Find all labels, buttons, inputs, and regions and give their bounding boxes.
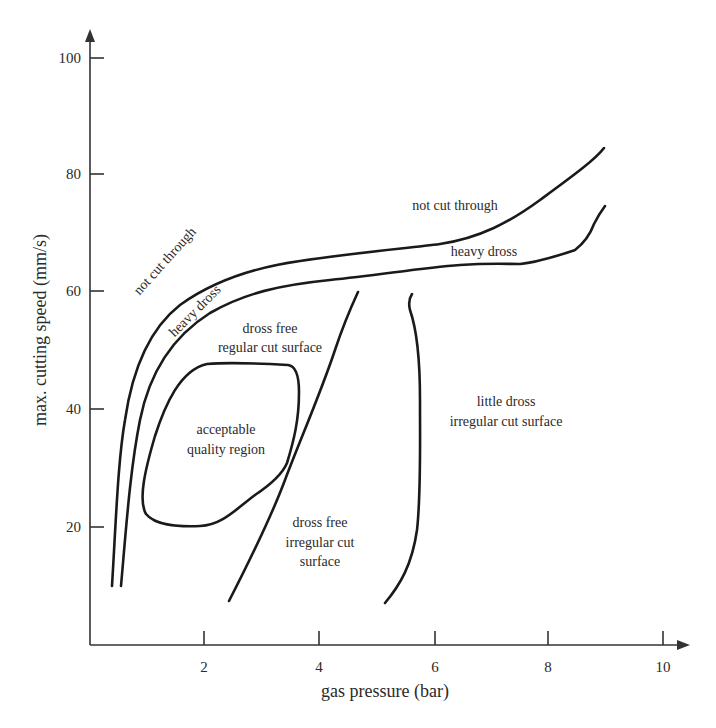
label-regular-line1: dross free xyxy=(243,321,298,336)
x-tick-label-4: 4 xyxy=(315,659,323,675)
y-tick-label-80: 80 xyxy=(66,166,81,182)
label-regular-line2: regular cut surface xyxy=(218,340,322,355)
little-dross-boundary xyxy=(385,294,420,603)
axes: 100 80 60 40 20 2 4 6 8 10 gas pressure … xyxy=(30,29,690,702)
not-cut-through-curve xyxy=(112,148,604,586)
x-tick-label-10: 10 xyxy=(656,659,671,675)
y-tick-label-100: 100 xyxy=(59,50,82,66)
curves xyxy=(112,148,605,603)
y-tick-label-20: 20 xyxy=(66,519,81,535)
x-tick-label-8: 8 xyxy=(544,659,552,675)
x-tick-label-6: 6 xyxy=(431,659,439,675)
label-acceptable-line1: acceptable xyxy=(196,422,255,437)
y-axis-title: max. cutting speed (mm/s) xyxy=(30,234,51,426)
y-tick-label-60: 60 xyxy=(66,283,81,299)
label-irregular-line2: irregular cut xyxy=(286,535,355,550)
label-little-dross-line1: little dross xyxy=(477,394,536,409)
label-irregular-line1: dross free xyxy=(293,515,348,530)
label-acceptable-line2: quality region xyxy=(187,442,265,457)
label-irregular-line3: surface xyxy=(300,554,340,569)
label-not-cut-through-right: not cut through xyxy=(412,198,498,213)
y-tick-label-40: 40 xyxy=(66,401,81,417)
label-heavy-dross-right: heavy dross xyxy=(451,244,518,259)
y-axis-arrow-icon xyxy=(85,29,95,42)
label-not-cut-through-left: not cut through xyxy=(130,224,198,298)
x-axis-arrow-icon xyxy=(677,640,690,650)
x-axis-title: gas pressure (bar) xyxy=(321,681,449,702)
chart: 100 80 60 40 20 2 4 6 8 10 gas pressure … xyxy=(0,0,716,728)
x-tick-label-2: 2 xyxy=(200,659,208,675)
label-little-dross-line2: irregular cut surface xyxy=(450,414,563,429)
